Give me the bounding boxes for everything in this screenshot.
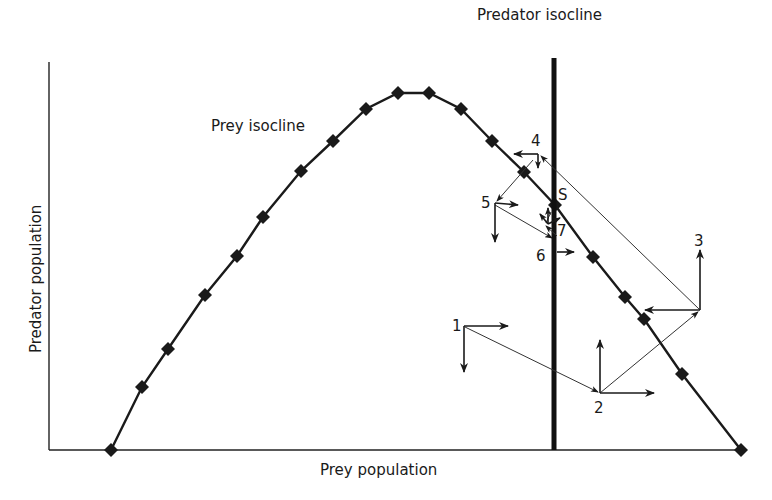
point-label-3: 3 (694, 232, 704, 250)
prey-isocline-label: Prey isocline (211, 117, 305, 135)
point-label-1: 1 (452, 317, 462, 335)
axes (49, 62, 745, 450)
trajectory-path (465, 156, 700, 393)
prey-isocline-curve (104, 86, 748, 457)
point-label-7: 7 (557, 222, 567, 240)
point-label-6: 6 (536, 247, 546, 265)
vector-arrows (464, 154, 700, 393)
predator-isocline-label: Predator isocline (477, 6, 602, 24)
point-label-4: 4 (531, 132, 541, 150)
equilibrium-label: S (558, 186, 568, 204)
y-axis-label: Predator population (27, 205, 45, 353)
x-axis-label: Prey population (320, 461, 437, 479)
predator-prey-diagram: Predator isocline Prey isocline Prey pop… (0, 0, 772, 500)
point-label-5: 5 (481, 194, 491, 212)
point-label-2: 2 (594, 399, 604, 417)
